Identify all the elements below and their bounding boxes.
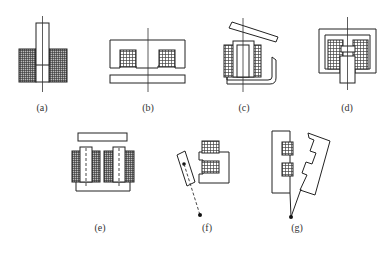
magnetic-circuits-figure: (a) (b) (c) (d) (e)	[0, 0, 391, 254]
pivot-point	[198, 213, 202, 217]
e-armature	[300, 133, 330, 195]
pole-piece	[341, 46, 355, 52]
label-a: (a)	[36, 102, 47, 114]
coil-top	[202, 141, 219, 153]
coil-right	[49, 49, 67, 82]
panel-g: (g)	[272, 131, 330, 234]
pivot-line-right	[291, 189, 301, 217]
armature	[110, 75, 185, 83]
pivot-point	[289, 215, 293, 219]
pivot-line-left	[290, 193, 291, 217]
label-d: (d)	[341, 102, 353, 114]
coil-left	[19, 49, 36, 82]
hinged-armature	[229, 22, 278, 42]
e-core	[272, 131, 290, 193]
coil-left	[120, 50, 136, 67]
label-b: (b)	[142, 102, 154, 114]
label-f: (f)	[202, 222, 212, 234]
coil-bottom	[282, 163, 293, 176]
coil-top	[282, 142, 293, 155]
label-e: (e)	[94, 222, 105, 234]
label-g: (g)	[291, 222, 303, 234]
coil-inner	[202, 161, 219, 173]
panel-f: (f)	[177, 141, 229, 234]
panel-b: (b)	[110, 28, 185, 114]
label-c: (c)	[238, 102, 249, 114]
panel-c: (c)	[224, 18, 278, 114]
panel-a: (a)	[19, 16, 67, 114]
panel-e: (e)	[72, 133, 134, 234]
pivoted-armature	[177, 151, 195, 186]
armature	[78, 133, 127, 141]
u-yoke	[76, 182, 130, 191]
coil-right	[159, 50, 175, 67]
panel-d: (d)	[319, 17, 376, 114]
